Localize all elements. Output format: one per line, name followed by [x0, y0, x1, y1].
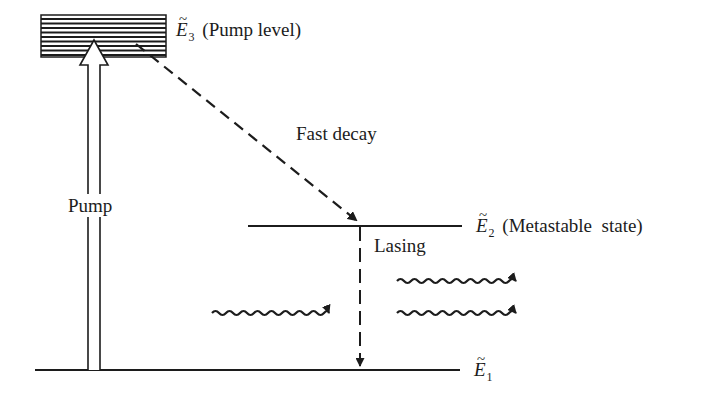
pump-level-band [41, 15, 166, 57]
e1-symbol: ~E [474, 359, 486, 380]
e2-symbol: ~E [476, 215, 488, 236]
e1-subscript: 1 [487, 370, 493, 384]
tilde-mark: ~ [477, 352, 485, 367]
emitted-photon-1-wave [397, 279, 516, 283]
ground-level-label: ~E1 [474, 360, 496, 383]
emitted-photon-2-wave [397, 311, 516, 315]
e3-symbol: ~E [176, 19, 188, 40]
metastable-level-label: ~E2 (Metastable state) [476, 216, 643, 239]
tilde-mark: ~ [479, 208, 487, 223]
e3-subscript: 3 [189, 30, 195, 44]
tilde-mark: ~ [179, 12, 187, 27]
incident-photon-wave [212, 311, 329, 315]
e2-description: (Metastable state) [502, 215, 642, 236]
e3-description: (Pump level) [202, 19, 301, 40]
e2-subscript: 2 [489, 226, 495, 240]
laser-energy-diagram: ~E3 (Pump level) ~E2 (Metastable state) … [0, 0, 724, 401]
fast-decay-label: Fast decay [296, 124, 377, 143]
lasing-label: Lasing [374, 236, 426, 255]
pump-level-label: ~E3 (Pump level) [176, 20, 301, 43]
pump-label: Pump [66, 194, 114, 217]
